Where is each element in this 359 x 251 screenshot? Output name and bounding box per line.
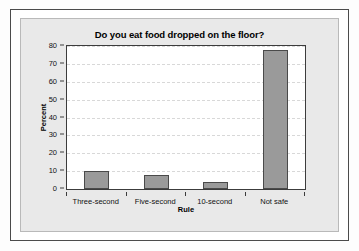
screenshot-root: Do you eat food dropped on the floor? Pe… <box>0 0 359 251</box>
bar-not-safe <box>263 50 288 189</box>
chart-outer-frame: Do you eat food dropped on the floor? Pe… <box>10 9 349 241</box>
y-tick-label: 50 <box>49 94 57 103</box>
bar-three-second <box>84 171 109 189</box>
plot-area <box>66 45 306 190</box>
y-tick-label: 70 <box>49 58 57 67</box>
x-axis-ticks: Three-secondFive-second10-secondNot safe <box>66 192 306 206</box>
gridline <box>67 46 305 47</box>
y-tick-mark <box>60 116 64 117</box>
y-tick-label: 0 <box>53 184 57 193</box>
y-tick-label: 60 <box>49 76 57 85</box>
x-tick-mark <box>304 192 305 196</box>
bar-five-second <box>144 175 169 189</box>
y-tick-mark <box>60 188 64 189</box>
chart-title: Do you eat food dropped on the floor? <box>21 29 338 40</box>
bar-10-second <box>203 182 228 189</box>
x-tick-mark <box>66 192 67 196</box>
x-tick-mark <box>126 192 127 196</box>
x-tick-mark <box>245 192 246 196</box>
y-tick-label: 80 <box>49 41 57 50</box>
y-axis-ticks: 01020304050607080 <box>21 45 64 190</box>
y-tick-label: 20 <box>49 148 57 157</box>
y-tick-mark <box>60 170 64 171</box>
y-tick-mark <box>60 152 64 153</box>
y-tick-label: 30 <box>49 130 57 139</box>
y-tick-mark <box>60 62 64 63</box>
y-tick-mark <box>60 80 64 81</box>
y-tick-label: 40 <box>49 112 57 121</box>
y-tick-mark <box>60 134 64 135</box>
y-tick-mark <box>60 98 64 99</box>
x-tick-mark <box>185 192 186 196</box>
chart-panel: Do you eat food dropped on the floor? Pe… <box>20 18 339 232</box>
y-tick-mark <box>60 45 64 46</box>
x-axis-title: Rule <box>66 205 306 214</box>
y-tick-label: 10 <box>49 166 57 175</box>
